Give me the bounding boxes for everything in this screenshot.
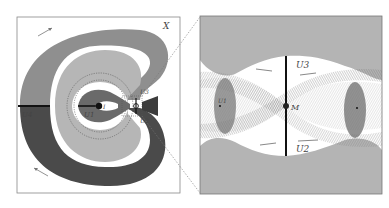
label-u1: U1 <box>84 111 94 119</box>
left-point <box>219 105 221 107</box>
label-u3-small: U3 <box>140 88 149 95</box>
label-u2-small: U2 <box>140 117 149 124</box>
center-point-M <box>283 103 289 109</box>
label-u2: U2 <box>296 144 310 154</box>
label-M: M <box>290 103 300 112</box>
left-panel: X U4 U1 I U3 U2 <box>17 17 180 193</box>
space-label-X: X <box>162 21 170 31</box>
label-u3: U3 <box>296 60 310 70</box>
figure-canvas: X U4 U1 I U3 U2 <box>0 0 389 208</box>
left-torus <box>214 78 236 134</box>
right-torus <box>344 82 366 138</box>
label-u1: U1 <box>218 97 227 104</box>
label-u4: U4 <box>22 111 32 119</box>
right-point <box>356 107 358 109</box>
right-panel: U3 U2 U1 M <box>200 16 382 194</box>
